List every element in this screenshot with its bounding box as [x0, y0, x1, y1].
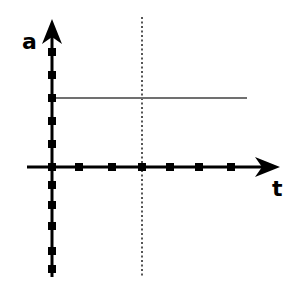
x-axis-label: t — [272, 176, 283, 201]
acceleration-time-graph: a t — [0, 0, 297, 294]
y-axis-label: a — [22, 29, 37, 54]
y-axis — [42, 19, 62, 277]
x-axis — [27, 157, 280, 177]
